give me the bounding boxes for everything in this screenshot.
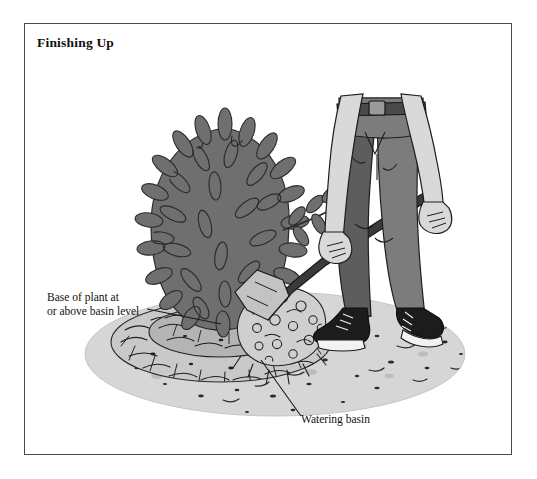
callout-watering-basin: Watering basin xyxy=(301,412,370,426)
gardener-hand-right xyxy=(419,202,452,233)
belt-buckle xyxy=(369,101,385,115)
figure-frame: Finishing Up xyxy=(24,23,512,455)
illustration-canvas xyxy=(25,24,513,456)
callout-base-of-plant: Base of plant at or above basin level xyxy=(47,290,139,318)
gardener-hand-left xyxy=(319,232,352,263)
